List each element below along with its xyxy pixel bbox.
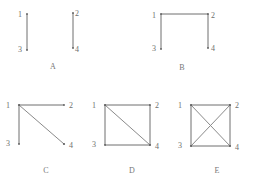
panel-d: 1 2 3 4 — [100, 102, 166, 150]
vertex-dot-2 — [63, 104, 65, 106]
vertex-label-4: 4 — [69, 142, 73, 150]
vertex-dot-4 — [63, 143, 65, 145]
panel-caption-b: B — [170, 64, 194, 72]
vertex-dot-4 — [207, 47, 209, 49]
panel-e-graph — [186, 102, 252, 150]
vertex-dot-4 — [72, 47, 74, 49]
vertex-dot-3 — [18, 143, 20, 145]
panel-caption-c: C — [34, 167, 58, 175]
vertex-label-1: 1 — [18, 11, 22, 19]
panel-caption-e: E — [205, 167, 229, 175]
panel-a: 1 3 2 4 — [18, 10, 90, 56]
vertex-label-2: 2 — [75, 10, 79, 18]
vertex-dot-1 — [26, 13, 28, 15]
vertex-label-3: 3 — [6, 140, 10, 148]
vertex-label-4: 4 — [75, 46, 79, 54]
panel-c: 1 2 3 4 — [14, 102, 80, 150]
vertex-label-2: 2 — [235, 102, 239, 110]
panel-caption-d: D — [120, 167, 144, 175]
vertex-dot-3 — [26, 49, 28, 51]
vertex-dot-2 — [229, 104, 231, 106]
edge-1-4 — [105, 105, 150, 145]
vertex-dot-1 — [18, 104, 20, 106]
vertex-label-2: 2 — [155, 102, 159, 110]
vertex-label-3: 3 — [178, 142, 182, 150]
graph-figure: 1 3 2 4 A 1 2 3 4 B 1 — [0, 0, 259, 192]
vertex-dot-3 — [190, 145, 192, 147]
vertex-label-1: 1 — [152, 12, 156, 20]
vertex-label-3: 3 — [152, 45, 156, 53]
vertex-dot-4 — [229, 145, 231, 147]
vertex-dot-3 — [104, 144, 106, 146]
vertex-dot-1 — [190, 104, 192, 106]
vertex-dot-3 — [160, 48, 162, 50]
panel-e: 1 2 3 4 — [186, 102, 252, 150]
panel-a-graph — [18, 10, 90, 56]
vertex-label-4: 4 — [211, 45, 215, 53]
vertex-label-1: 1 — [6, 102, 10, 110]
vertex-dot-4 — [149, 144, 151, 146]
vertex-dot-2 — [72, 12, 74, 14]
vertex-label-4: 4 — [155, 143, 159, 151]
edge-1-4 — [19, 105, 64, 144]
vertex-dot-1 — [160, 13, 162, 15]
vertex-label-2: 2 — [211, 12, 215, 20]
vertex-dot-2 — [149, 104, 151, 106]
vertex-label-2: 2 — [69, 102, 73, 110]
vertex-label-1: 1 — [178, 102, 182, 110]
vertex-label-1: 1 — [92, 102, 96, 110]
vertex-dot-1 — [104, 104, 106, 106]
panel-caption-a: A — [41, 63, 65, 71]
panel-b: 1 2 3 4 — [152, 10, 224, 56]
vertex-dot-2 — [207, 13, 209, 15]
vertex-label-3: 3 — [18, 46, 22, 54]
vertex-label-4: 4 — [235, 144, 239, 152]
vertex-label-3: 3 — [92, 141, 96, 149]
